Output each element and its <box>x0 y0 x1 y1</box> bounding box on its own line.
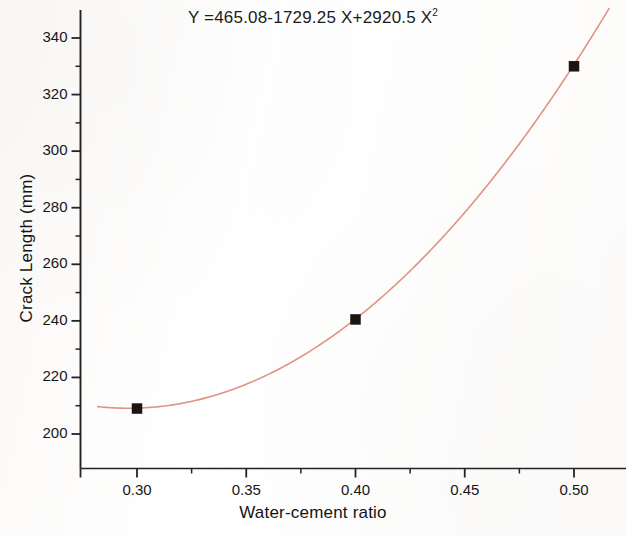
y-axis-title: Crack Length (mm) <box>17 128 37 368</box>
y-tick-label: 220 <box>16 367 68 384</box>
chart-figure: Y =465.08-1729.25 X+2920.5 X2 2002202402… <box>0 0 626 536</box>
x-axis-title: Water-cement ratio <box>0 503 626 523</box>
fit-curve-group <box>98 9 609 409</box>
data-point-marker <box>569 61 580 72</box>
x-tick-label: 0.35 <box>216 481 276 498</box>
data-point-marker <box>350 314 361 325</box>
x-tick-label: 0.50 <box>544 481 604 498</box>
data-point-marker <box>132 403 143 414</box>
x-tick-label: 0.40 <box>326 481 386 498</box>
plot-canvas <box>0 0 626 536</box>
y-tick-label: 320 <box>16 85 68 102</box>
x-tick-label: 0.30 <box>107 481 167 498</box>
data-points-group <box>132 61 580 414</box>
y-tick-label: 340 <box>16 28 68 45</box>
x-tick-label: 0.45 <box>435 481 495 498</box>
y-tick-label: 200 <box>16 424 68 441</box>
quadratic-fit-curve <box>98 9 609 409</box>
